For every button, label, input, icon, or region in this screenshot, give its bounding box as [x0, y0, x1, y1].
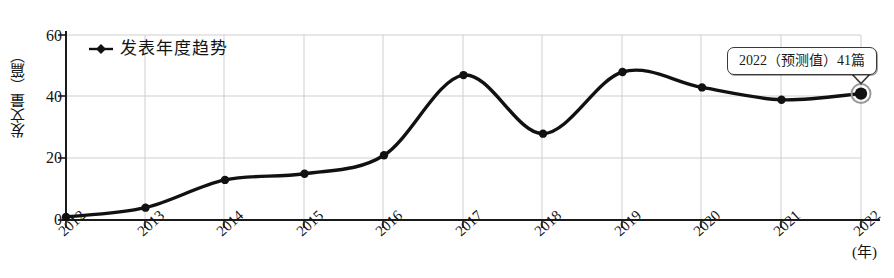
x-tick-label: 2017	[453, 208, 485, 239]
line-chart: 发文量（篇） (年) 60 40 20 0	[0, 0, 894, 278]
x-tick-label: 2018	[532, 208, 564, 239]
x-tick-label: 2022	[851, 208, 883, 239]
x-tick-label: 2019	[612, 208, 644, 239]
x-tick-label: 2013	[135, 208, 167, 239]
x-tick-label: 2016	[373, 208, 405, 239]
x-tick-label: 2014	[214, 208, 246, 239]
x-tick-label: 2015	[294, 208, 326, 239]
x-axis-tick-labels: 2012 2013 2014 2015 2016 2017 2018 2019 …	[0, 0, 894, 278]
x-tick-label: 2020	[691, 208, 723, 239]
x-tick-label: 2021	[771, 208, 803, 239]
annotation-text: 2022（预测值）41篇	[739, 53, 865, 68]
x-tick-label: 2012	[56, 208, 88, 239]
annotation-callout: 2022（预测值）41篇	[727, 47, 877, 75]
